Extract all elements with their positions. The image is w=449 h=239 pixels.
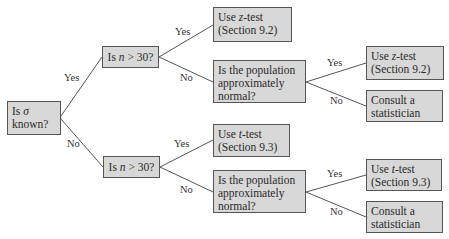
node-is-n-gt-30-known: Is n > 30? bbox=[102, 46, 159, 68]
node-population-normal-unknown: Is the population approximately normal? bbox=[213, 170, 306, 213]
sigma-symbol: σ bbox=[23, 105, 29, 117]
node-population-normal-known: Is the population approximately normal? bbox=[213, 60, 306, 103]
node-use-t-test-large-n: Use t-test (Section 9.3) bbox=[213, 124, 290, 157]
node-use-t-test-normal: Use t-test (Section 9.3) bbox=[366, 159, 442, 191]
edge-label-popbot-no: No bbox=[330, 206, 343, 217]
node-is-n-gt-30-unknown: Is n > 30? bbox=[103, 156, 160, 178]
node-use-z-test-normal: Use z-test (Section 9.2) bbox=[366, 46, 444, 80]
node-is-sigma-known: Is σ known? bbox=[7, 101, 61, 135]
edge-label-nbot-no: No bbox=[180, 184, 193, 195]
node-consult-statistician-known: Consult a statistician bbox=[366, 90, 443, 122]
edge-label-popbot-yes: Yes bbox=[327, 168, 342, 179]
edge-label-nbot-yes: Yes bbox=[174, 138, 189, 149]
node-consult-statistician-unknown: Consult a statistician bbox=[366, 201, 443, 233]
edge-label-root-no: No bbox=[67, 138, 80, 149]
edge-label-poptop-no: No bbox=[330, 95, 343, 106]
edge-label-ntop-yes: Yes bbox=[175, 26, 190, 37]
edge-label-root-yes: Yes bbox=[64, 72, 79, 83]
node-use-z-test-large-n: Use z-test (Section 9.2) bbox=[213, 7, 292, 42]
edge-label-poptop-yes: Yes bbox=[327, 57, 342, 68]
edge-label-ntop-no: No bbox=[180, 72, 193, 83]
